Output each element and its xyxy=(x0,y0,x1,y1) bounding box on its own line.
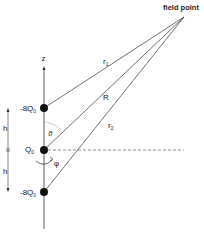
r1-label: r1 xyxy=(103,57,109,67)
r2-label: r2 xyxy=(108,121,114,131)
charge-middle xyxy=(40,146,48,154)
dipole-field-diagram: field point z -8Q0 Q0 -8Q0 r1 R r2 h h ϑ… xyxy=(0,0,204,234)
r1-line xyxy=(44,17,184,108)
charge-top-label: -8Q0 xyxy=(20,104,36,114)
charge-bottom-label: -8Q0 xyxy=(20,188,36,198)
z-axis-arrow-icon xyxy=(43,66,46,70)
z-axis-label: z xyxy=(42,54,46,63)
charge-top xyxy=(40,104,48,112)
r2-line xyxy=(44,17,184,192)
phi-label: φ xyxy=(54,159,59,168)
theta-arc xyxy=(44,122,62,131)
h-label-upper: h xyxy=(3,124,7,133)
field-point-label: field point xyxy=(163,3,199,12)
charge-middle-label: Q0 xyxy=(25,145,34,155)
R-line xyxy=(44,17,184,150)
h-label-lower: h xyxy=(3,167,7,176)
R-label: R xyxy=(103,93,109,102)
theta-label: ϑ xyxy=(48,129,53,138)
charge-bottom xyxy=(40,188,48,196)
